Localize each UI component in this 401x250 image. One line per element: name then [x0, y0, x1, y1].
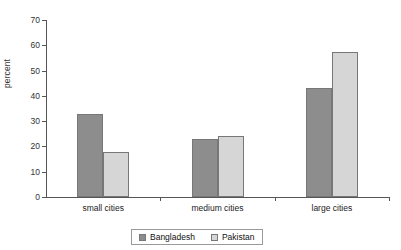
y-axis-tick: [42, 45, 46, 46]
bar-pakistan-small-cities: [103, 152, 129, 198]
bar-group: [77, 20, 129, 197]
y-axis-tick-label: 50: [31, 66, 40, 76]
bar-bangladesh-small-cities: [77, 114, 103, 197]
y-axis-tick-label: 20: [31, 141, 40, 151]
bar-group: [306, 20, 358, 197]
x-axis-category-label: large cities: [275, 203, 389, 213]
y-axis-line: [46, 20, 47, 197]
y-axis-label: percent: [2, 18, 12, 88]
bar-group: [192, 20, 244, 197]
y-axis-tick: [42, 71, 46, 72]
y-axis-tick-label: 0: [35, 192, 40, 202]
legend-item-series-1: Pakistan: [211, 232, 255, 242]
y-axis-tick: [42, 96, 46, 97]
x-axis-tick: [160, 197, 161, 201]
x-axis-line: [46, 197, 389, 198]
bar-chart: percent 010203040506070 small citiesmedi…: [0, 0, 401, 250]
y-axis-tick: [42, 121, 46, 122]
legend-swatch-icon: [139, 234, 146, 241]
y-axis-tick: [42, 146, 46, 147]
x-axis-tick: [389, 197, 390, 201]
y-axis-tick-label: 60: [31, 40, 40, 50]
y-axis-tick: [42, 197, 46, 198]
y-axis-tick-label: 70: [31, 15, 40, 25]
y-axis-tick-label: 30: [31, 116, 40, 126]
legend-swatch-icon: [211, 234, 218, 241]
legend-item-series-0: Bangladesh: [139, 232, 195, 242]
y-axis-tick: [42, 20, 46, 21]
bar-pakistan-medium-cities: [218, 136, 244, 197]
legend-label: Pakistan: [222, 232, 255, 242]
bar-pakistan-large-cities: [332, 52, 358, 197]
x-axis-category-label: medium cities: [160, 203, 274, 213]
y-axis-tick-label: 10: [31, 167, 40, 177]
legend-label: Bangladesh: [150, 232, 195, 242]
x-axis-category-label: small cities: [46, 203, 160, 213]
plot-area: 010203040506070 small citiesmedium citie…: [46, 20, 389, 197]
chart-legend: Bangladesh Pakistan: [131, 229, 263, 245]
bar-bangladesh-large-cities: [306, 88, 332, 197]
bar-bangladesh-medium-cities: [192, 139, 218, 197]
x-axis-tick: [275, 197, 276, 201]
y-axis-tick-label: 40: [31, 91, 40, 101]
y-axis-tick: [42, 172, 46, 173]
